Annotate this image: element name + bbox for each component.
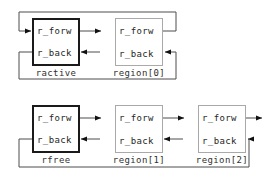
region-list-diagram: r_forw r_back ractive r_forw r_back regi… (0, 0, 270, 181)
node-ractive-field-back: r_back (34, 42, 78, 64)
node-ractive[interactable]: r_forw r_back (32, 18, 80, 66)
node-region0-field-back: r_back (116, 42, 162, 65)
node-region1-field-forw: r_forw (116, 106, 162, 129)
node-region1-field-back: r_back (116, 129, 162, 152)
node-rfree-field-forw: r_forw (34, 107, 78, 129)
node-ractive-field-forw: r_forw (34, 20, 78, 42)
node-region0-field-forw: r_forw (116, 19, 162, 42)
node-region2-field-back: r_back (199, 129, 245, 152)
node-region0[interactable]: r_forw r_back (115, 18, 163, 66)
node-label-region1: region[1] (101, 155, 177, 165)
node-label-region0: region[0] (101, 68, 177, 78)
node-region2-field-forw: r_forw (199, 106, 245, 129)
node-rfree[interactable]: r_forw r_back (32, 105, 80, 153)
node-rfree-field-back: r_back (34, 129, 78, 151)
node-label-ractive: ractive (22, 68, 90, 78)
node-label-region2: region[2] (184, 155, 260, 165)
node-label-rfree: rfree (22, 155, 90, 165)
node-region2[interactable]: r_forw r_back (198, 105, 246, 153)
node-region1[interactable]: r_forw r_back (115, 105, 163, 153)
